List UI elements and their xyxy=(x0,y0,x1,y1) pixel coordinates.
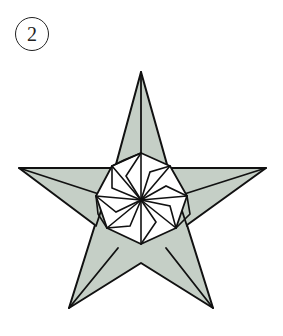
origami-star-diagram xyxy=(0,0,283,336)
